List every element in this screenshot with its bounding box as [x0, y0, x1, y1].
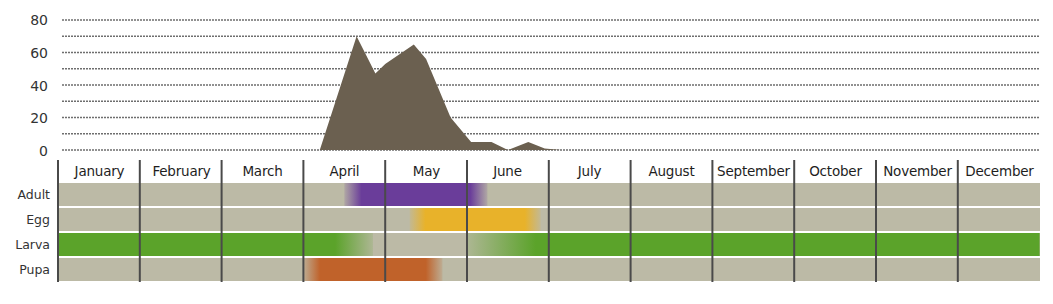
month-label-june: June	[467, 160, 548, 182]
stage-label-larva: Larva	[0, 233, 50, 256]
chart-plot	[0, 0, 1053, 304]
period-egg	[410, 208, 541, 231]
month-label-july: July	[549, 160, 630, 182]
month-label-january: January	[59, 160, 140, 182]
month-label-march: March	[222, 160, 303, 182]
y-tick-80: 80	[0, 12, 48, 28]
period-adult	[344, 183, 487, 206]
y-tick-40: 40	[0, 78, 48, 94]
y-tick-0: 0	[0, 143, 48, 159]
month-label-december: December	[959, 160, 1040, 182]
stage-label-pupa: Pupa	[0, 258, 50, 281]
period-larva	[467, 233, 1040, 256]
y-tick-60: 60	[0, 45, 48, 61]
phenology-chart: 80 60 40 20 0 January February March Apr…	[0, 0, 1053, 304]
month-label-august: August	[631, 160, 712, 182]
month-label-september: September	[713, 160, 794, 182]
stage-label-adult: Adult	[0, 183, 50, 206]
abundance-area	[320, 36, 561, 150]
period-larva	[58, 233, 373, 256]
gridlines	[62, 20, 1040, 150]
period-pupa	[303, 258, 442, 281]
month-label-october: October	[795, 160, 876, 182]
month-label-november: November	[877, 160, 958, 182]
month-label-april: April	[304, 160, 385, 182]
y-tick-20: 20	[0, 110, 48, 126]
month-label-may: May	[386, 160, 467, 182]
stage-label-egg: Egg	[0, 208, 50, 231]
month-label-february: February	[141, 160, 222, 182]
